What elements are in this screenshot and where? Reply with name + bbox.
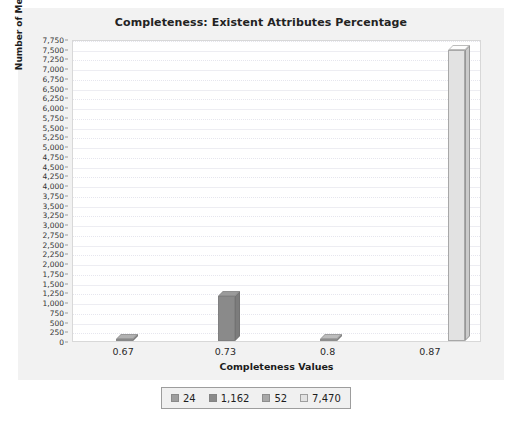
bar-face <box>448 50 465 341</box>
y-axis-tick-label: 2,500 <box>43 240 64 249</box>
gridline <box>73 314 480 315</box>
gridline <box>73 99 480 100</box>
y-axis-tick-mark <box>65 254 68 255</box>
y-axis-tick-mark <box>65 205 68 206</box>
y-axis-tick-mark <box>65 40 68 41</box>
gridline <box>73 158 480 159</box>
y-axis-tick-label: 2,000 <box>43 260 64 269</box>
y-axis-tick-mark <box>65 303 68 304</box>
chart-title: Completeness: Existent Attributes Percen… <box>18 16 504 29</box>
y-axis-tick-mark <box>65 342 68 343</box>
y-axis-tick-label: 5,000 <box>43 143 64 152</box>
y-axis-tick-label: 7,000 <box>43 65 64 74</box>
y-axis-tick-mark <box>65 215 68 216</box>
gridline <box>73 226 480 227</box>
gridline <box>73 197 480 198</box>
bar-0.73[interactable] <box>218 296 235 341</box>
gridline <box>73 265 480 266</box>
y-axis-tick-mark <box>65 49 68 50</box>
y-axis-tick-mark <box>65 88 68 89</box>
y-axis-tick-mark <box>65 137 68 138</box>
y-axis-tick-label: 750 <box>50 308 64 317</box>
y-axis-tick-label: 3,250 <box>43 211 64 220</box>
x-axis-tick-labels: 0.670.730.80.87 <box>72 346 481 362</box>
gridline <box>73 80 480 81</box>
legend-item-2[interactable]: 52 <box>262 393 287 404</box>
y-axis-tick-mark <box>65 147 68 148</box>
gridline <box>73 255 480 256</box>
gridline <box>73 275 480 276</box>
bar-0.87[interactable] <box>448 50 465 341</box>
y-axis-tick-label: 500 <box>50 318 64 327</box>
plot-area <box>72 40 481 342</box>
y-axis-tick-label: 6,750 <box>43 74 64 83</box>
gridline <box>73 109 480 110</box>
bar-0.67[interactable] <box>116 339 133 341</box>
y-axis-tick-mark <box>65 312 68 313</box>
y-axis-tick-mark <box>65 127 68 128</box>
y-axis-tick-labels: 02505007501,0001,2501,5001,7502,0002,250… <box>18 40 70 342</box>
y-axis-tick-mark <box>65 176 68 177</box>
legend-label: 52 <box>274 393 287 404</box>
y-axis-tick-label: 3,500 <box>43 201 64 210</box>
gridline <box>73 51 480 52</box>
y-axis-tick-mark <box>65 332 68 333</box>
y-axis-tick-label: 6,500 <box>43 84 64 93</box>
legend-swatch-icon <box>262 394 270 402</box>
y-axis-tick-mark <box>65 283 68 284</box>
gridline <box>73 304 480 305</box>
gridline <box>73 60 480 61</box>
y-axis-tick-mark <box>65 225 68 226</box>
y-axis-tick-mark <box>65 108 68 109</box>
gridline <box>73 207 480 208</box>
y-axis-tick-mark <box>65 156 68 157</box>
bar-face <box>116 339 133 341</box>
y-axis-tick-mark <box>65 234 68 235</box>
gridline <box>73 138 480 139</box>
gridline <box>73 177 480 178</box>
y-axis-tick-label: 4,000 <box>43 182 64 191</box>
y-axis-tick-label: 2,250 <box>43 250 64 259</box>
gridline <box>73 324 480 325</box>
y-axis-tick-label: 7,750 <box>43 36 64 45</box>
chart-legend[interactable]: 241,162527,470 <box>161 387 351 409</box>
y-axis-tick-label: 4,250 <box>43 172 64 181</box>
y-axis-tick-label: 7,250 <box>43 55 64 64</box>
gridline <box>73 41 480 42</box>
gridline <box>73 70 480 71</box>
y-axis-tick-label: 6,000 <box>43 104 64 113</box>
bar-0.8[interactable] <box>320 339 337 341</box>
legend-swatch-icon <box>209 394 217 402</box>
chart-panel: Completeness: Existent Attributes Percen… <box>18 8 504 380</box>
gridline <box>73 90 480 91</box>
y-axis-tick-label: 0 <box>59 338 64 347</box>
y-axis-tick-label: 1,750 <box>43 269 64 278</box>
y-axis-tick-mark <box>65 59 68 60</box>
y-axis-tick-mark <box>65 273 68 274</box>
x-axis-tick-label: 0.73 <box>215 346 236 357</box>
bar-side <box>465 45 470 341</box>
legend-item-1[interactable]: 1,162 <box>209 393 250 404</box>
legend-item-0[interactable]: 24 <box>171 393 196 404</box>
gridline <box>73 187 480 188</box>
y-axis-tick-mark <box>65 78 68 79</box>
x-axis-title: Completeness Values <box>72 361 481 372</box>
y-axis-tick-label: 250 <box>50 328 64 337</box>
y-axis-tick-mark <box>65 244 68 245</box>
y-axis-tick-mark <box>65 322 68 323</box>
x-axis-tick-label: 0.67 <box>113 346 134 357</box>
legend-label: 1,162 <box>221 393 250 404</box>
gridline <box>73 119 480 120</box>
legend-item-3[interactable]: 7,470 <box>300 393 341 404</box>
y-axis-tick-label: 1,250 <box>43 289 64 298</box>
legend-swatch-icon <box>300 394 308 402</box>
x-axis-tick-label: 0.87 <box>419 346 440 357</box>
y-axis-tick-label: 4,750 <box>43 152 64 161</box>
gridline <box>73 285 480 286</box>
legend-swatch-icon <box>171 394 179 402</box>
legend-label: 24 <box>183 393 196 404</box>
y-axis-tick-label: 1,000 <box>43 299 64 308</box>
legend-label: 7,470 <box>312 393 341 404</box>
bar-face <box>320 339 337 341</box>
y-axis-tick-label: 4,500 <box>43 162 64 171</box>
